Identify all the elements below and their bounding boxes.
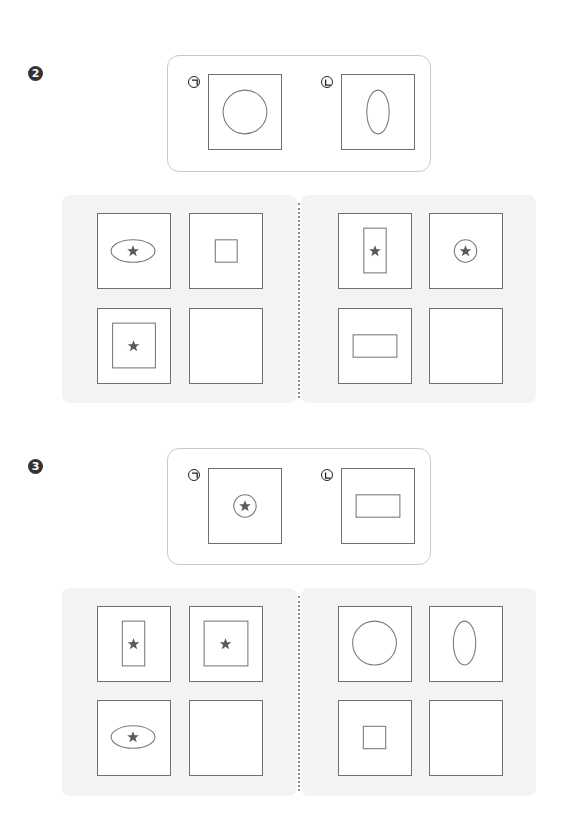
example-box-a — [208, 468, 282, 544]
problem-number-badge: 3 — [28, 459, 43, 474]
example-box-b — [341, 468, 415, 544]
problem-number-badge: 2 — [28, 66, 43, 81]
example-panel — [167, 55, 431, 172]
star-icon — [239, 500, 251, 511]
grid-cell — [97, 700, 171, 776]
circle-shape — [339, 607, 411, 681]
grid-cell-empty — [189, 308, 263, 384]
small-square-shape — [190, 214, 262, 288]
star-icon — [220, 638, 232, 649]
grid-cell — [97, 213, 171, 289]
grid-cell-empty — [429, 700, 503, 776]
vertical-ellipse-shape — [430, 607, 502, 681]
label-giyeok-icon — [188, 469, 200, 481]
grid-cell — [189, 606, 263, 682]
grid-cell — [338, 308, 412, 384]
horizontal-ellipse-with-star — [98, 214, 170, 288]
vertical-ellipse-shape — [342, 75, 414, 149]
star-icon — [128, 340, 140, 351]
star-icon — [127, 245, 139, 256]
horizontal-ellipse-with-star — [98, 701, 170, 775]
grid-cell — [189, 213, 263, 289]
star-icon — [369, 245, 381, 256]
star-icon — [460, 245, 472, 256]
example-panel — [167, 448, 431, 565]
large-square-with-star — [98, 309, 170, 383]
horizontal-rectangle-shape — [342, 469, 414, 543]
grid-cell — [97, 308, 171, 384]
grid-cell — [338, 606, 412, 682]
label-nieun-icon — [321, 469, 333, 481]
vertical-rectangle-with-star — [339, 214, 411, 288]
star-icon — [127, 731, 139, 742]
star-icon — [128, 638, 140, 649]
grid-cell — [338, 213, 412, 289]
grid-cell-empty — [429, 308, 503, 384]
vertical-rectangle-with-star — [98, 607, 170, 681]
small-circle-with-star — [209, 469, 281, 543]
dotted-divider — [298, 203, 300, 398]
small-circle-with-star — [430, 214, 502, 288]
example-box-a — [208, 74, 282, 150]
large-square-with-star — [190, 607, 262, 681]
grid-cell-empty — [189, 700, 263, 776]
grid-cell — [429, 606, 503, 682]
example-box-b — [341, 74, 415, 150]
horizontal-rectangle-shape — [339, 309, 411, 383]
label-nieun-icon — [321, 76, 333, 88]
small-square-shape — [339, 701, 411, 775]
grid-cell — [338, 700, 412, 776]
grid-cell — [97, 606, 171, 682]
circle-shape — [209, 75, 281, 149]
grid-cell — [429, 213, 503, 289]
dotted-divider — [298, 596, 300, 791]
label-giyeok-icon — [188, 76, 200, 88]
